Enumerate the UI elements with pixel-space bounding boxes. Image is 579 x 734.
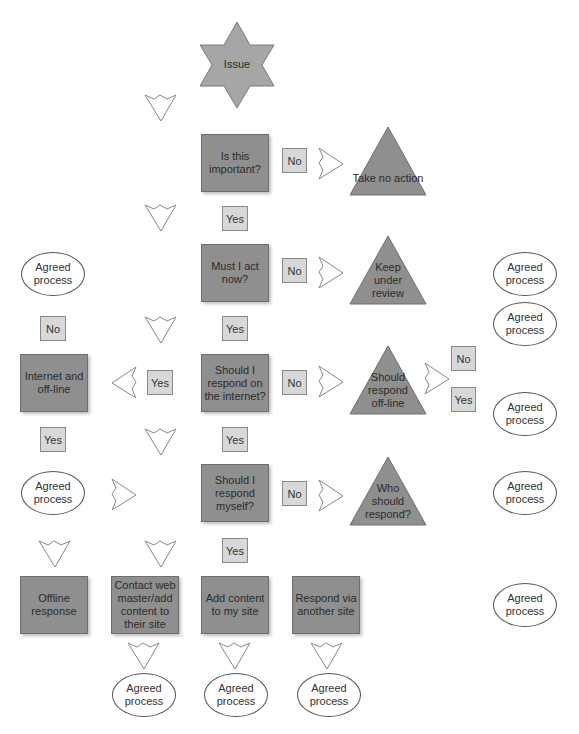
action-add-content-label: Add content to my site (204, 592, 266, 618)
agreed-process-oval: Agreed process (493, 302, 557, 346)
agreed-process-oval: Agreed process (493, 392, 557, 436)
agreed-process-oval: Agreed process (21, 471, 85, 515)
no-label: No (40, 316, 66, 341)
decision-respond-myself-label: Should I respond myself? (204, 474, 266, 513)
arrow-down-icon (144, 316, 178, 344)
issue-star: Issue (198, 20, 276, 110)
arrow-right-icon (111, 478, 137, 512)
arrow-down-icon (38, 540, 72, 568)
outcome-keep-review: Keep under review (348, 234, 428, 306)
decision-respond-internet-label: Should I respond on the internet? (204, 364, 266, 403)
no-label: No (282, 258, 307, 283)
outcome-keep-review-label: Keep under review (372, 261, 404, 300)
decision-act-now: Must I act now? (201, 244, 269, 302)
decision-respond-myself: Should I respond myself? (201, 464, 269, 522)
yes-label: Yes (451, 387, 476, 412)
decision-important: Is this important? (201, 134, 269, 192)
yes-label: Yes (40, 427, 66, 452)
agreed-process-oval: Agreed process (112, 673, 176, 717)
decision-act-now-label: Must I act now? (204, 260, 266, 286)
outcome-respond-offline: Should respond off-line (348, 344, 428, 416)
agreed-process-oval: Agreed process (493, 471, 557, 515)
outcome-no-action-label: Take no action (348, 172, 428, 185)
agreed-process-oval: Agreed process (493, 252, 557, 296)
arrow-down-icon (144, 204, 178, 232)
arrow-down-icon (310, 642, 344, 670)
issue-label: Issue (198, 58, 276, 70)
action-contact-webmaster: Contact web master/add content to their … (111, 576, 179, 634)
arrow-right-icon (318, 479, 344, 513)
arrow-down-icon (144, 94, 178, 122)
agreed-process-oval: Agreed process (493, 583, 557, 627)
arrow-down-icon (127, 642, 161, 670)
action-contact-webmaster-label: Contact web master/add content to their … (114, 579, 176, 631)
no-label: No (282, 370, 307, 395)
yes-label: Yes (222, 538, 248, 563)
decision-respond-internet: Should I respond on the internet? (201, 354, 269, 412)
outcome-no-action: Take no action (348, 125, 428, 197)
decision-important-label: Is this important? (204, 150, 266, 176)
arrow-right-icon (318, 147, 344, 181)
agreed-process-oval: Agreed process (21, 252, 85, 296)
arrow-right-icon (318, 256, 344, 290)
action-respond-other-site: Respond via another site (292, 576, 360, 634)
yes-label: Yes (222, 427, 248, 452)
flowchart-canvas: Issue (0, 0, 579, 734)
outcome-who-respond-label: Who should respond? (364, 482, 412, 521)
yes-label: Yes (222, 316, 248, 341)
agreed-process-oval: Agreed process (204, 673, 268, 717)
agreed-process-oval: Agreed process (297, 673, 361, 717)
action-add-content: Add content to my site (201, 576, 269, 634)
arrow-down-icon (218, 642, 252, 670)
no-label: No (451, 346, 476, 371)
action-internet-offline-label: Internet and off-line (23, 370, 85, 396)
yes-label: Yes (222, 206, 248, 231)
action-offline-response: Offline response (20, 576, 88, 634)
outcome-who-respond: Who should respond? (348, 455, 428, 527)
yes-label: Yes (147, 370, 173, 395)
no-label: No (282, 481, 307, 506)
arrow-right-icon (318, 365, 344, 399)
action-internet-offline: Internet and off-line (20, 354, 88, 412)
triangle-icon (348, 125, 428, 197)
action-offline-response-label: Offline response (23, 592, 85, 618)
outcome-respond-offline-label: Should respond off-line (366, 371, 410, 410)
action-respond-other-site-label: Respond via another site (295, 592, 357, 618)
arrow-left-icon (111, 366, 137, 400)
no-label: No (282, 148, 307, 173)
arrow-down-icon (144, 540, 178, 568)
arrow-down-icon (144, 428, 178, 456)
